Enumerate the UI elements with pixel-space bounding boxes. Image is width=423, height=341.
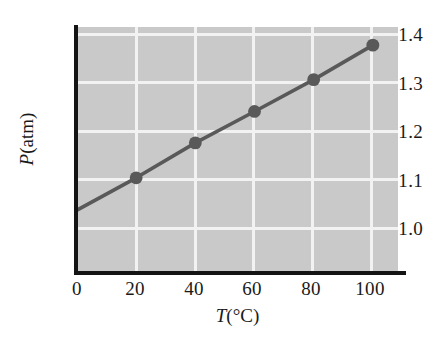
x-axis-label: T(°C) [77, 305, 398, 327]
plot-area [77, 27, 398, 272]
data-point-80 [307, 73, 320, 86]
y-tick-label-1.1: 1.1 [357, 171, 423, 190]
data-point-20 [130, 171, 143, 184]
y-tick-label-1.2: 1.2 [357, 122, 423, 141]
y-axis-label: P(atm) [16, 84, 38, 194]
y-axis-label-symbol: P [16, 154, 37, 166]
data-point-markers [130, 39, 379, 184]
line-path [77, 45, 373, 210]
x-axis-label-unit: (°C) [226, 305, 259, 326]
x-tick-label-100: 100 [340, 279, 400, 298]
x-tick-label-80: 80 [281, 279, 341, 298]
x-tick-label-40: 40 [164, 279, 224, 298]
y-axis-spine [74, 25, 78, 274]
x-tick-label-0: 0 [47, 279, 107, 298]
data-series-line [77, 27, 398, 272]
data-point-40 [189, 136, 202, 149]
x-tick-label-60: 60 [222, 279, 282, 298]
x-tick-label-20: 20 [105, 279, 165, 298]
y-tick-label-1.4: 1.4 [357, 25, 423, 44]
y-axis-label-unit: (atm) [16, 113, 37, 154]
y-tick-label-1.0: 1.0 [357, 219, 423, 238]
x-axis-spine [74, 271, 406, 275]
pressure-temperature-chart: 1.4 1.3 1.2 1.1 1.0 0 20 40 60 80 100 P(… [0, 0, 423, 341]
data-point-60 [248, 105, 261, 118]
x-axis-label-symbol: T [216, 305, 227, 326]
y-tick-label-1.3: 1.3 [357, 74, 423, 93]
